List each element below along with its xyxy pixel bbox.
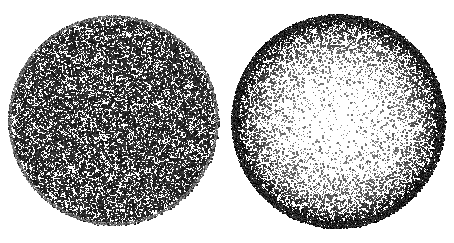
stipple-render-canvas [0, 0, 454, 243]
figure-root: Comparison of uniform and limb-darkened … [0, 0, 454, 243]
disc-panels-container [0, 0, 454, 243]
